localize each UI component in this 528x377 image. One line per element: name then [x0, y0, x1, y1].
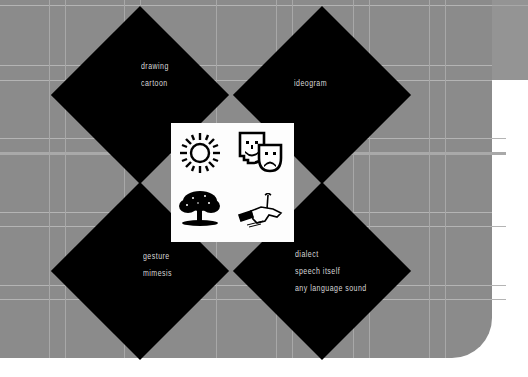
label-top-left: drawing cartoon — [141, 58, 169, 92]
icon-panel — [171, 123, 294, 242]
diagram-stage: drawing cartoon ideogram gesture mimesis… — [0, 0, 528, 377]
label-gesture: gesture — [143, 248, 172, 265]
grid-line — [49, 0, 50, 358]
grid-line — [0, 65, 492, 66]
label-speech-itself: speech itself — [295, 263, 367, 280]
label-top-right: ideogram — [294, 75, 327, 92]
grid-line — [429, 0, 430, 358]
theater-masks-icon — [237, 130, 285, 174]
light-gray-strip — [492, 0, 528, 80]
label-any-language-sound: any language sound — [295, 280, 367, 297]
label-bottom-right: dialect speech itself any language sound — [295, 246, 367, 297]
label-cartoon: cartoon — [141, 75, 169, 92]
sun-icon — [178, 131, 222, 175]
fallen-figure-arrow-icon — [237, 193, 285, 229]
grid-line — [65, 0, 66, 358]
label-drawing: drawing — [141, 58, 169, 75]
tree-icon — [178, 189, 222, 229]
grid-line — [445, 0, 446, 358]
grid-line — [0, 5, 492, 6]
label-mimesis: mimesis — [143, 265, 172, 282]
grid-line — [492, 5, 528, 6]
label-dialect: dialect — [295, 246, 367, 263]
label-ideogram: ideogram — [294, 75, 327, 92]
grid-line — [0, 299, 506, 300]
label-bottom-left: gesture mimesis — [143, 248, 172, 282]
